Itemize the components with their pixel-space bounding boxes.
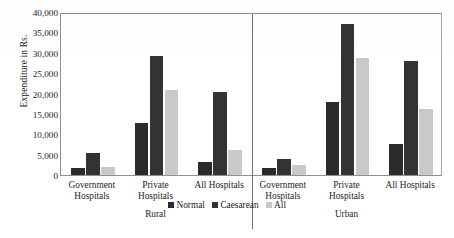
x-axis-category-label: All Hospitals: [378, 180, 442, 191]
bar-group: [188, 14, 252, 175]
plot-area: [60, 13, 442, 176]
bar-chart: Expenditure in Rs. 40,00035,00030,00025,…: [0, 0, 454, 238]
legend-label: All: [274, 200, 286, 210]
bar-all: [356, 58, 370, 175]
y-axis-tick-label: 5,000: [18, 151, 58, 161]
section-label-urban: Urban: [251, 209, 442, 219]
bar-all: [165, 90, 179, 175]
y-axis-tick-label: 30,000: [18, 49, 58, 59]
bar-normal: [135, 123, 149, 175]
x-axis-category-label: GovernmentHospitals: [60, 180, 124, 201]
legend-label: Caesarean: [220, 200, 258, 210]
chart-legend: NormalCaesareanAll: [168, 200, 286, 210]
legend-swatch-icon: [168, 202, 174, 208]
bar-all: [101, 167, 115, 175]
x-axis-category-label: PrivateHospitals: [315, 180, 379, 201]
x-axis-category-label: PrivateHospitals: [124, 180, 188, 201]
y-axis-tick-label: 35,000: [18, 28, 58, 38]
y-axis-tick-label: 10,000: [18, 130, 58, 140]
bar-all: [228, 150, 242, 175]
bar-group: [252, 14, 316, 175]
bar-caesarean: [404, 61, 418, 175]
legend-item-caesarean[interactable]: Caesarean: [212, 200, 259, 210]
legend-label: Normal: [177, 200, 205, 210]
y-axis-tick-label: 25,000: [18, 69, 58, 79]
x-axis-category-label: GovernmentHospitals: [251, 180, 315, 201]
bar-all: [292, 165, 306, 175]
legend-swatch-icon: [266, 202, 272, 208]
bar-caesarean: [277, 159, 291, 175]
bar-normal: [326, 102, 340, 175]
legend-item-all[interactable]: All: [266, 200, 286, 210]
bar-group: [125, 14, 189, 175]
bar-normal: [389, 144, 403, 175]
y-axis-tick-label: 15,000: [18, 110, 58, 120]
bar-all: [419, 109, 433, 175]
bar-normal: [262, 168, 276, 175]
y-axis-tick-labels: 40,00035,00030,00025,00020,00015,00010,0…: [18, 8, 58, 184]
x-axis-label-line: Private: [315, 180, 379, 191]
section-label-rural: Rural: [60, 209, 251, 219]
bar-normal: [71, 168, 85, 175]
bar-caesarean: [341, 24, 355, 175]
bar-normal: [198, 162, 212, 175]
bar-caesarean: [86, 153, 100, 175]
x-axis-category-label: All Hospitals: [187, 180, 251, 191]
bar-caesarean: [213, 92, 227, 175]
y-axis-tick-label: 0: [18, 171, 58, 181]
legend-item-normal[interactable]: Normal: [168, 200, 205, 210]
y-axis-tick-label: 20,000: [18, 90, 58, 100]
bar-caesarean: [150, 56, 164, 175]
x-axis-label-line: Private: [124, 180, 188, 191]
bar-group: [379, 14, 443, 175]
bar-group: [61, 14, 125, 175]
bar-group: [316, 14, 380, 175]
x-axis-label-line: Hospitals: [315, 191, 379, 202]
x-axis-label-line: Government: [60, 180, 124, 191]
x-axis-label-line: Government: [251, 180, 315, 191]
bars-container: [61, 14, 441, 175]
x-axis-label-line: Hospitals: [60, 191, 124, 202]
x-axis-label-line: All Hospitals: [378, 180, 442, 191]
legend-swatch-icon: [212, 202, 218, 208]
x-axis-label-line: All Hospitals: [187, 180, 251, 191]
y-axis-tick-label: 40,000: [18, 8, 58, 18]
